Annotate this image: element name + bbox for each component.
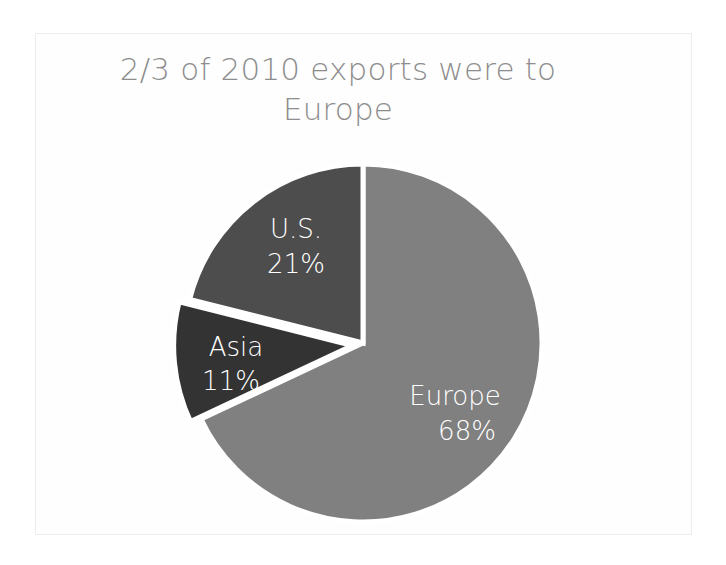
- pie-label-us-value: 21%: [267, 249, 325, 279]
- pie-label-asia-name: Asia: [209, 332, 264, 362]
- pie-svg: Europe 68% U.S. 21% Asia 11%: [0, 0, 726, 565]
- pie-chart: 2/3 of 2010 exports were to Europe Europ…: [0, 0, 726, 565]
- pie-label-asia-value: 11%: [202, 366, 260, 396]
- pie-label-europe-name: Europe: [409, 381, 500, 411]
- pie-label-us-name: U.S.: [270, 214, 322, 244]
- pie-label-europe-value: 68%: [438, 416, 496, 446]
